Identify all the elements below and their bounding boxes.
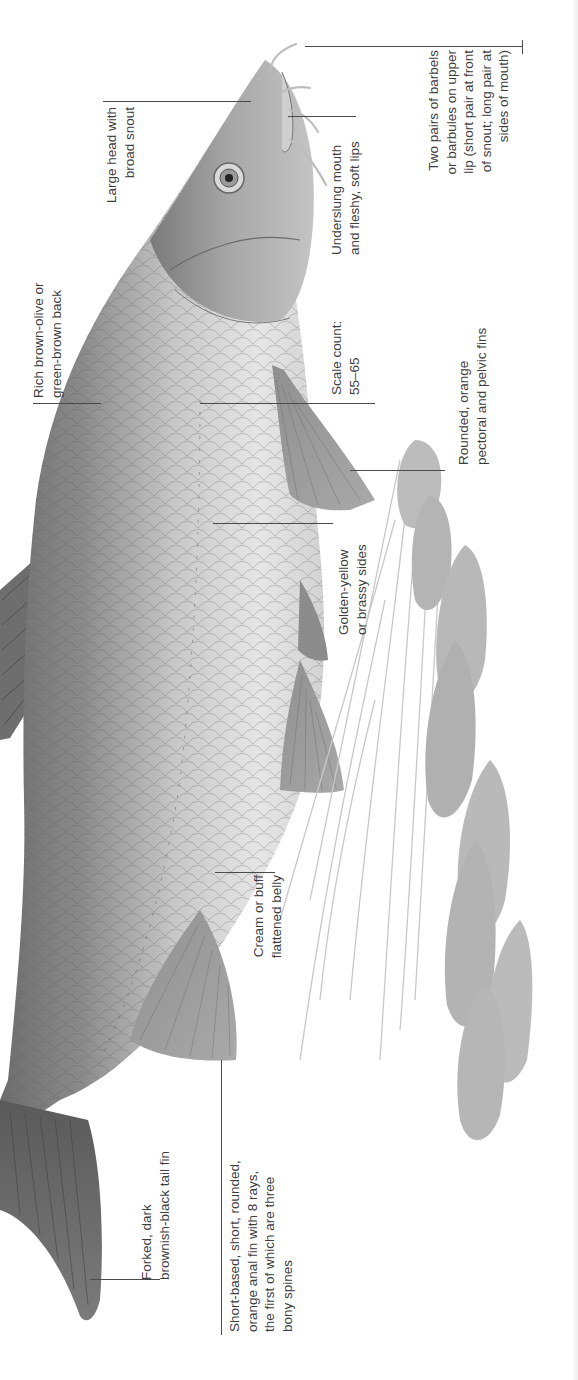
leader-mouth bbox=[288, 116, 356, 117]
tail-fin bbox=[0, 1100, 102, 1320]
leader-barbels bbox=[305, 46, 523, 47]
label-scales: Scale count: 55–65 bbox=[328, 300, 363, 395]
eye-icon bbox=[214, 163, 244, 193]
leader-pectoral bbox=[350, 470, 445, 471]
label-back: Rich brown-olive or green-brown back bbox=[30, 253, 65, 398]
label-head: Large head with broad snout bbox=[103, 107, 138, 232]
leader-back bbox=[33, 403, 101, 404]
leader-anal-fin bbox=[221, 1060, 222, 1335]
label-sides: Golden-yellow or brassy sides bbox=[335, 525, 370, 635]
leader-belly bbox=[215, 872, 275, 873]
leader-scales bbox=[200, 403, 375, 404]
leader-head bbox=[103, 101, 251, 102]
label-tail: Forked, dark brownish-black tail fin bbox=[138, 1115, 173, 1280]
label-mouth: Underslung mouth and fleshy, soft lips bbox=[328, 120, 363, 255]
leader-barbels-end bbox=[522, 40, 523, 54]
leader-sides bbox=[213, 523, 333, 524]
label-pectoral: Rounded, orange pectoral and pelvic fins bbox=[455, 295, 490, 465]
page-edge-shadow bbox=[572, 0, 578, 1380]
label-belly: Cream or buff flattened belly bbox=[250, 875, 285, 980]
label-anal-fin: Short-based, short, rounded, orange anal… bbox=[226, 1122, 296, 1332]
